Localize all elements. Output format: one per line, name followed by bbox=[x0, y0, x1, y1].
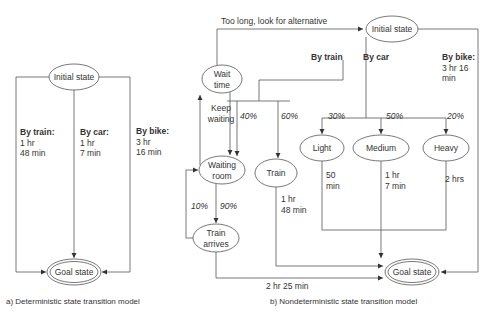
heavy-label: Heavy bbox=[423, 143, 469, 154]
medium-time: 1 hr 7 min bbox=[385, 170, 406, 191]
p-90-label: 90% bbox=[220, 201, 237, 212]
train-time2: 48 min bbox=[281, 205, 307, 216]
light-time2: min bbox=[326, 181, 340, 192]
b-bike-mode: By bike: bbox=[442, 52, 475, 63]
a-car-transition: By car: 1 hr 7 min bbox=[80, 127, 109, 159]
arrives-time-label: 2 hr 25 min bbox=[266, 281, 309, 292]
p-30-label: 30% bbox=[328, 111, 345, 122]
a-bike-time2: 16 min bbox=[136, 147, 169, 158]
a-bike-time1: 3 hr bbox=[136, 137, 169, 148]
wait-time-line2: time bbox=[202, 80, 242, 91]
light-label: Light bbox=[300, 143, 344, 154]
keep-waiting-label: Keep waiting bbox=[202, 103, 240, 124]
a-train-transition: By train: 1 hr 48 min bbox=[20, 127, 54, 159]
train-time1: 1 hr bbox=[281, 194, 307, 205]
a-car-mode: By car: bbox=[80, 127, 109, 138]
keep-waiting-line1: Keep bbox=[202, 103, 240, 114]
medium-time2: 7 min bbox=[385, 181, 406, 192]
p-50-label: 50% bbox=[386, 111, 403, 122]
p-10-label: 10% bbox=[191, 201, 208, 212]
a-train-time2: 48 min bbox=[20, 148, 54, 159]
b-bike-time2: min bbox=[442, 73, 475, 84]
caption-a: a) Deterministic state transition model bbox=[6, 297, 140, 306]
a-goal-state-label: Goal state bbox=[47, 267, 101, 278]
p-20-label: 20% bbox=[447, 111, 464, 122]
b-goal-state-label: Goal state bbox=[385, 267, 439, 278]
b-initial-state-label: Initial state bbox=[366, 24, 418, 35]
b-by-train-label: By train bbox=[311, 52, 343, 63]
train-arrives-line1: Train bbox=[193, 228, 239, 239]
b-bike-time1: 3 hr 16 bbox=[442, 63, 475, 74]
p-60-label: 60% bbox=[281, 111, 298, 122]
a-initial-state-label: Initial state bbox=[49, 72, 99, 83]
wait-time-line1: Wait bbox=[202, 69, 242, 80]
a-train-mode: By train: bbox=[20, 127, 54, 138]
keep-waiting-line2: waiting bbox=[202, 114, 240, 125]
too-long-label: Too long, look for alternative bbox=[221, 16, 327, 27]
waiting-room-line2: room bbox=[199, 171, 245, 182]
medium-time1: 1 hr bbox=[385, 170, 406, 181]
caption-b: b) Nondeterministic state transition mod… bbox=[270, 297, 417, 306]
train-time: 1 hr 48 min bbox=[281, 194, 307, 215]
medium-label: Medium bbox=[353, 143, 409, 154]
waiting-room-label: Waiting room bbox=[199, 160, 245, 181]
train-label: Train bbox=[255, 168, 297, 179]
b-bike-transition: By bike: 3 hr 16 min bbox=[442, 52, 475, 84]
p-40-label: 40% bbox=[240, 111, 257, 122]
a-car-time1: 1 hr bbox=[80, 138, 109, 149]
a-car-time2: 7 min bbox=[80, 148, 109, 159]
wait-time-label: Wait time bbox=[202, 69, 242, 90]
waiting-room-line1: Waiting bbox=[199, 160, 245, 171]
a-bike-mode: By bike: bbox=[136, 126, 169, 137]
heavy-time: 2 hrs bbox=[445, 174, 464, 185]
light-time1: 50 bbox=[326, 170, 340, 181]
b-by-car-label: By car bbox=[363, 52, 389, 63]
train-arrives-label: Train arrives bbox=[193, 228, 239, 249]
train-arrives-line2: arrives bbox=[193, 239, 239, 250]
a-bike-transition: By bike: 3 hr 16 min bbox=[136, 126, 169, 158]
light-time: 50 min bbox=[326, 170, 340, 191]
a-train-time1: 1 hr bbox=[20, 138, 54, 149]
